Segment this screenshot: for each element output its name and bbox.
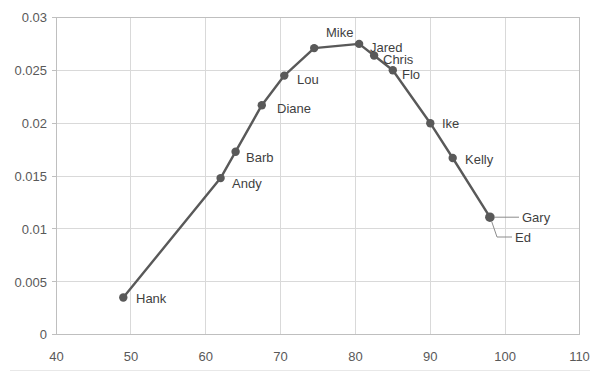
data-point-mike[interactable]	[310, 44, 318, 52]
data-point-gary-ed[interactable]	[485, 212, 495, 222]
point-label-ike: Ike	[442, 116, 459, 131]
x-tick-label-70: 70	[273, 349, 287, 364]
x-tick-label-80: 80	[348, 349, 362, 364]
x-tick-label-60: 60	[198, 349, 212, 364]
data-point-hank[interactable]	[119, 293, 127, 301]
data-point-diane[interactable]	[258, 101, 266, 109]
point-label-hank: Hank	[136, 291, 167, 306]
y-tick-label-0.02: 0.02	[22, 116, 47, 131]
data-point-kelly[interactable]	[449, 154, 457, 162]
point-label-gary: Gary	[522, 210, 551, 225]
y-tick-label-0.03: 0.03	[22, 10, 47, 25]
point-label-ed: Ed	[515, 230, 531, 245]
data-point-lou[interactable]	[280, 71, 288, 79]
data-point-flo[interactable]	[389, 66, 397, 74]
data-point-jared[interactable]	[355, 40, 363, 48]
y-tick-label-0: 0	[40, 327, 47, 342]
data-point-barb[interactable]	[231, 148, 239, 156]
chart-background	[0, 0, 597, 375]
y-tick-label-0.01: 0.01	[22, 222, 47, 237]
x-tick-label-100: 100	[494, 349, 516, 364]
point-label-kelly: Kelly	[465, 152, 494, 167]
x-tick-label-40: 40	[49, 349, 63, 364]
data-point-ike[interactable]	[426, 119, 434, 127]
scatter-chart: 0.03 0.025 0.02 0.015 0.01 0.005 0 40 50…	[0, 0, 597, 375]
chart-container: 0.03 0.025 0.02 0.015 0.01 0.005 0 40 50…	[0, 0, 597, 375]
point-label-diane: Diane	[277, 101, 311, 116]
point-label-mike: Mike	[326, 25, 353, 40]
y-tick-label-0.015: 0.015	[14, 169, 47, 184]
point-label-andy: Andy	[232, 176, 262, 191]
data-point-andy[interactable]	[216, 174, 224, 182]
x-tick-label-90: 90	[423, 349, 437, 364]
x-tick-label-50: 50	[124, 349, 138, 364]
point-label-barb: Barb	[246, 150, 273, 165]
point-label-chris: Chris	[383, 52, 414, 67]
point-label-flo: Flo	[402, 67, 420, 82]
y-tick-label-0.025: 0.025	[14, 63, 47, 78]
y-tick-label-0.005: 0.005	[14, 275, 47, 290]
x-tick-label-110: 110	[569, 349, 590, 364]
point-label-lou: Lou	[297, 72, 319, 87]
